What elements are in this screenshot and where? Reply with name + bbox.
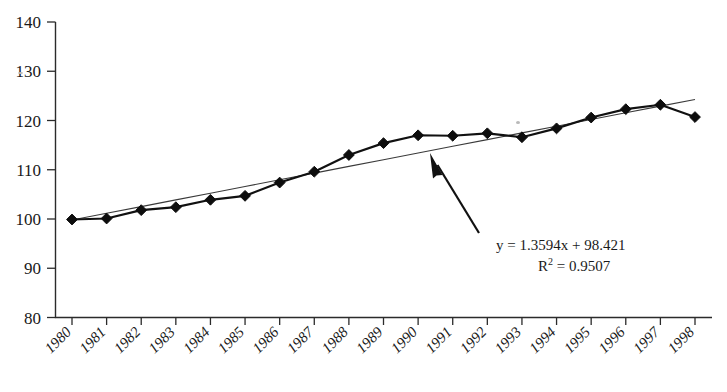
line-chart: 8090100110120130140 19801981198219831984… bbox=[0, 0, 727, 392]
y-tick-label: 110 bbox=[16, 161, 41, 180]
r-squared-prefix: R bbox=[538, 258, 548, 274]
y-tick-label: 80 bbox=[24, 309, 41, 328]
scan-artifact-speck bbox=[18, 72, 23, 74]
y-tick-label: 100 bbox=[16, 210, 42, 229]
scan-artifact-speck bbox=[516, 121, 520, 124]
y-tick-label: 140 bbox=[16, 13, 42, 32]
chart-figure: 8090100110120130140 19801981198219831984… bbox=[0, 0, 727, 392]
y-tick-label: 90 bbox=[24, 259, 41, 278]
regression-equation-text: y = 1.3594x + 98.421 bbox=[496, 237, 625, 253]
r-squared-value: = 0.9507 bbox=[553, 258, 611, 274]
y-tick-label: 120 bbox=[16, 112, 42, 131]
